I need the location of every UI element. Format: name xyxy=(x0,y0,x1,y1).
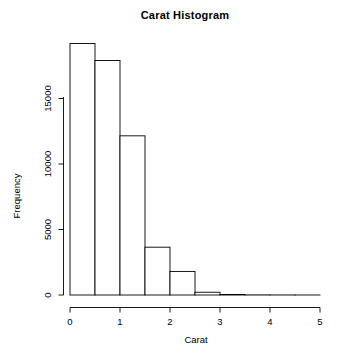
x-axis-label: Carat xyxy=(184,334,208,345)
x-tick-label: 5 xyxy=(317,316,322,327)
histogram-bar xyxy=(120,136,145,295)
histogram-bar xyxy=(220,294,245,295)
y-tick-label: 15000 xyxy=(42,85,53,111)
histogram-bar xyxy=(170,271,195,295)
x-tick-label: 3 xyxy=(217,316,222,327)
x-tick-label: 0 xyxy=(67,316,72,327)
carat-histogram-chart: Carat Histogram 050001000015000 012345 F… xyxy=(0,0,362,360)
y-axis-label: Frequency xyxy=(11,173,22,218)
histogram-bar xyxy=(95,61,120,295)
x-tick-label: 4 xyxy=(267,316,272,327)
chart-title: Carat Histogram xyxy=(141,9,230,21)
y-tick-label: 5000 xyxy=(42,219,53,240)
histogram-bar xyxy=(195,292,220,295)
y-tick-label: 10000 xyxy=(42,151,53,177)
x-tick-label: 2 xyxy=(167,316,172,327)
histogram-bar xyxy=(145,247,170,295)
x-tick-label: 1 xyxy=(117,316,122,327)
chart-background xyxy=(0,0,362,360)
histogram-bar xyxy=(70,43,95,295)
y-tick-label: 0 xyxy=(42,292,53,297)
